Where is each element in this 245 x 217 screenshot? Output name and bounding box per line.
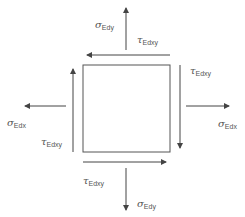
label-tau-right: τEdxy <box>190 66 211 76</box>
tau-symbol: τ <box>190 65 196 76</box>
tau-symbol: τ <box>41 136 47 147</box>
sigma-symbol: σ <box>218 118 225 129</box>
label-tau-top: τEdxy <box>137 35 158 45</box>
label-sigma-right: σEdx <box>218 119 237 129</box>
sigma-symbol: σ <box>137 198 144 209</box>
tau-symbol: τ <box>83 175 89 186</box>
label-sigma-bottom: σEdy <box>137 199 156 209</box>
label-sigma-left: σEdx <box>7 118 26 128</box>
stress-element-diagram: σEdy τEdxy τEdxy σEdx σEdx τEdxy τEdxy σ… <box>0 0 245 217</box>
sigma-symbol: σ <box>7 117 14 128</box>
stress-element-square <box>83 65 170 152</box>
diagram-canvas <box>0 0 245 217</box>
label-sigma-top: σEdy <box>95 20 114 30</box>
label-tau-left: τEdxy <box>41 137 62 147</box>
label-tau-bottom: τEdxy <box>83 176 104 186</box>
tau-symbol: τ <box>137 34 143 45</box>
sigma-symbol: σ <box>95 19 102 30</box>
